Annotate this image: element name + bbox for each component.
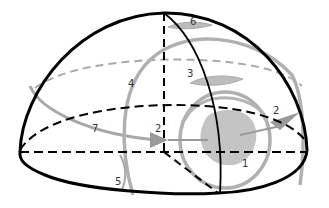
label-2-right: 2 xyxy=(273,106,279,116)
label-4: 4 xyxy=(128,79,134,89)
path-3 xyxy=(190,76,243,85)
label-5: 5 xyxy=(115,177,121,187)
diagram-canvas xyxy=(0,0,329,208)
label-2-left: 2 xyxy=(155,124,161,134)
label-3: 3 xyxy=(187,69,193,79)
back-latitude-dashed xyxy=(35,60,302,88)
label-1: 1 xyxy=(242,159,248,169)
hemisphere-diagram: 1 2 2 3 4 5 6 7 xyxy=(0,0,329,208)
label-7: 7 xyxy=(92,124,98,134)
arrow-7-head xyxy=(150,132,168,148)
label-6: 6 xyxy=(190,17,196,27)
center-blob xyxy=(200,110,256,165)
